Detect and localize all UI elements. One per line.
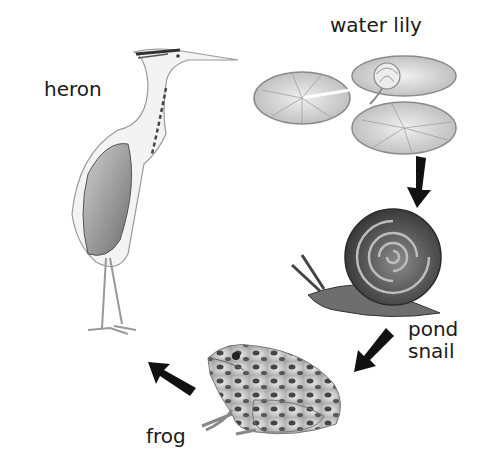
label-water-lily: water lily — [330, 14, 422, 36]
arrow-snail-to-frog — [352, 328, 394, 374]
frog-illustration — [196, 334, 356, 444]
heron-illustration — [48, 44, 248, 344]
water-lily-illustration — [252, 54, 464, 158]
arrow-frog-to-heron — [148, 362, 198, 398]
label-frog: frog — [146, 425, 186, 447]
pond-snail-illustration — [290, 205, 450, 325]
arrow-lily-to-snail — [404, 156, 434, 208]
